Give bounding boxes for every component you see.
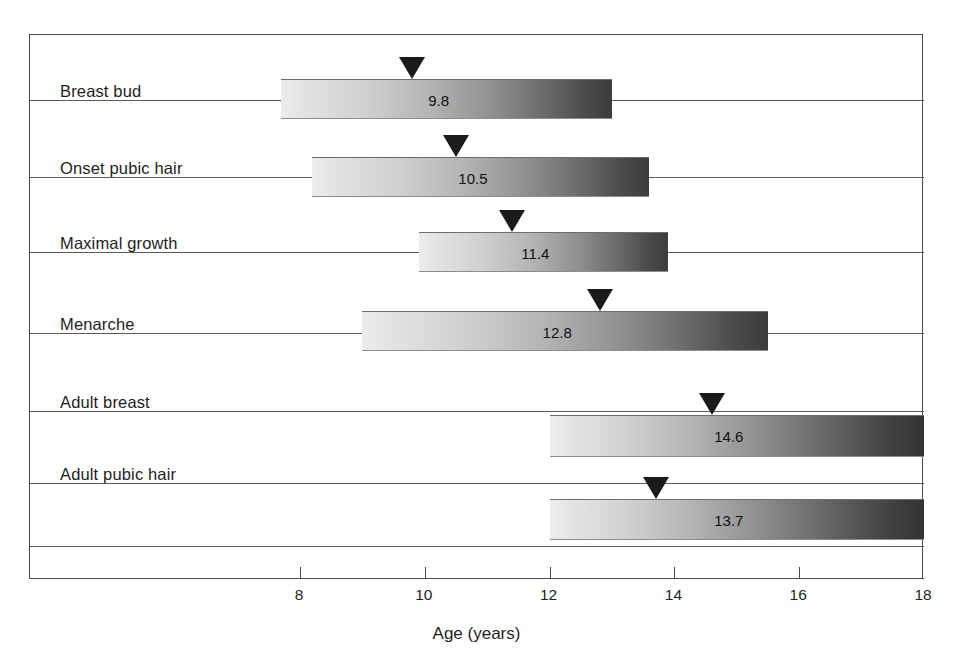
x-tick-label-16: 16: [790, 587, 807, 603]
x-tick-12: [550, 567, 551, 578]
mean-marker-onset-pubic-hair: [443, 135, 469, 157]
category-label-maximal-growth: Maximal growth: [60, 235, 178, 252]
x-tick-10: [425, 567, 426, 578]
bar-value-maximal-growth: 11.4: [521, 246, 549, 261]
mean-marker-menarche: [587, 289, 613, 311]
x-axis-line: [30, 578, 924, 579]
x-axis-title: Age (years): [0, 625, 953, 642]
category-label-adult-breast: Adult breast: [60, 394, 150, 411]
x-tick-label-14: 14: [665, 587, 682, 603]
x-tick-8: [300, 567, 301, 578]
mean-marker-adult-breast: [699, 393, 725, 415]
x-tick-14: [674, 567, 675, 578]
category-label-adult-pubic-hair: Adult pubic hair: [60, 466, 176, 483]
x-tick-label-12: 12: [540, 587, 557, 603]
bar-value-adult-breast: 14.6: [714, 429, 743, 444]
row-separator-6: [30, 483, 924, 484]
x-tick-16: [799, 567, 800, 578]
mean-marker-breast-bud: [399, 57, 425, 79]
x-tick-label-18: 18: [914, 587, 931, 603]
bar-value-adult-pubic-hair: 13.7: [714, 513, 743, 528]
mean-marker-adult-pubic-hair: [643, 477, 669, 499]
category-label-breast-bud: Breast bud: [60, 83, 141, 100]
row-separator-5: [30, 411, 924, 412]
bar-value-onset-pubic-hair: 10.5: [458, 171, 487, 186]
plot-frame: Breast bud Onset pubic hair Maximal grow…: [29, 34, 923, 579]
category-label-menarche: Menarche: [60, 316, 135, 333]
chart-figure: Breast bud Onset pubic hair Maximal grow…: [0, 0, 953, 664]
x-tick-label-10: 10: [415, 587, 432, 603]
bar-value-breast-bud: 9.8: [428, 93, 449, 108]
category-label-onset-pubic-hair: Onset pubic hair: [60, 160, 183, 177]
x-tick-label-8: 8: [295, 587, 304, 603]
mean-marker-maximal-growth: [499, 210, 525, 232]
row-separator-7: [30, 546, 924, 547]
bar-value-menarche: 12.8: [543, 325, 572, 340]
